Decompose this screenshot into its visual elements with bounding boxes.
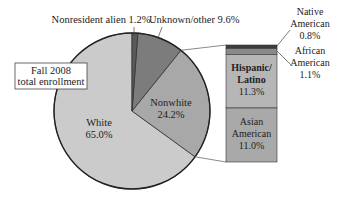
title-line-2: total enrollment xyxy=(18,76,85,87)
label-nonresident-alien: Nonresident alien 1.2% xyxy=(52,14,151,25)
label-african-line-2: American xyxy=(290,57,329,68)
label-white-value: 65.0% xyxy=(85,129,112,140)
connector-bottom xyxy=(195,157,226,162)
label-asian-value: 11.0% xyxy=(239,140,264,151)
label-hispanic-value: 11.3% xyxy=(239,86,264,97)
bar-african-american xyxy=(226,49,277,55)
label-native-line-1: Native xyxy=(297,6,324,17)
label-native-value: 0.8% xyxy=(300,30,321,41)
label-hispanic-line-1: Hispanic/ xyxy=(231,62,272,73)
title-line-1: Fall 2008 xyxy=(31,65,71,76)
label-white-name: White xyxy=(86,117,112,128)
connector-top xyxy=(181,45,226,50)
enrollment-pie-chart: Fall 2008 total enrollment Nonresident a… xyxy=(0,0,348,198)
label-asian-line-2: American xyxy=(232,128,271,139)
label-unknown-other: Unknown/other 9.6% xyxy=(149,14,240,25)
label-nonwhite-value: 24.2% xyxy=(157,109,184,120)
leader-african xyxy=(277,51,291,65)
title-box: Fall 2008 total enrollment xyxy=(15,63,87,89)
label-nonwhite-name: Nonwhite xyxy=(150,97,192,108)
label-hispanic-line-2: Latino xyxy=(237,74,265,85)
pie xyxy=(54,33,210,189)
label-african-value: 1.1% xyxy=(300,69,321,80)
leader-unknown xyxy=(158,27,162,38)
label-native-line-2: American xyxy=(290,18,329,29)
bar-native-american xyxy=(226,45,277,49)
leader-native xyxy=(277,30,290,46)
label-african-line-1: African xyxy=(295,45,326,56)
label-asian-line-1: Asian xyxy=(240,116,263,127)
